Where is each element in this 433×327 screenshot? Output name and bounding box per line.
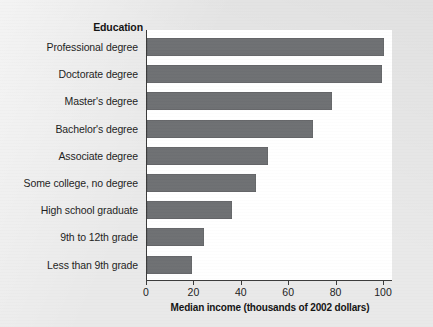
bar: [147, 147, 268, 165]
plot-area: [146, 30, 392, 280]
x-tick-mark: [383, 280, 384, 285]
bar: [147, 256, 192, 274]
category-label: Professional degree: [0, 42, 142, 53]
category-label: Some college, no degree: [0, 178, 142, 189]
bar: [147, 228, 204, 246]
x-axis-title: Median income (thousands of 2002 dollars…: [146, 302, 394, 313]
category-label: Bachelor's degree: [0, 124, 142, 135]
chart-page: Education Professional degreeDoctorate d…: [0, 0, 433, 327]
x-tick-label: 0: [143, 286, 149, 298]
x-tick-mark: [146, 280, 147, 285]
category-label: Master's degree: [0, 96, 142, 107]
x-tick-label: 100: [374, 286, 392, 298]
x-tick-mark: [336, 280, 337, 285]
bars-container: [147, 30, 392, 280]
bar: [147, 38, 384, 56]
category-label: Doctorate degree: [0, 69, 142, 80]
x-tick-label: 80: [330, 286, 342, 298]
x-tick-label: 40: [235, 286, 247, 298]
category-label: High school graduate: [0, 205, 142, 216]
bar: [147, 174, 256, 192]
x-tick-mark: [193, 280, 194, 285]
category-label: Less than 9th grade: [0, 260, 142, 271]
x-tick-mark: [241, 280, 242, 285]
x-tick-label: 20: [188, 286, 200, 298]
bar: [147, 201, 232, 219]
bar: [147, 92, 332, 110]
category-label: 9th to 12th grade: [0, 232, 142, 243]
bar: [147, 120, 313, 138]
category-label: Associate degree: [0, 151, 142, 162]
category-label-column: Professional degreeDoctorate degreeMaste…: [0, 31, 142, 280]
x-tick-label: 60: [282, 286, 294, 298]
bar: [147, 65, 382, 83]
x-tick-mark: [288, 280, 289, 285]
x-axis-line: [146, 280, 392, 281]
